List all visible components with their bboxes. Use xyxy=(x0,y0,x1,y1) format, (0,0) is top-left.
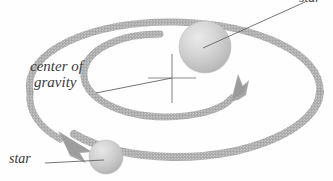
star-label-top: star xyxy=(299,0,321,6)
lower-star-sphere xyxy=(89,140,123,174)
center-of-gravity-label-line1: center of xyxy=(30,58,83,74)
binary-star-illustration xyxy=(0,0,333,181)
outer-orbit-band xyxy=(29,22,320,163)
clipped-caption-fragment: — —— —— — xyxy=(3,0,86,4)
star-label-bottom: star xyxy=(9,152,31,167)
center-of-gravity-label: center of gravity xyxy=(30,59,83,91)
leader-line-center-of-gravity xyxy=(96,78,172,93)
diagram-canvas: — —— —— — center of gravity star star xyxy=(0,0,333,181)
center-of-gravity-label-line2: gravity xyxy=(34,75,83,91)
clipped-caption-text: — —— —— — xyxy=(3,0,86,4)
